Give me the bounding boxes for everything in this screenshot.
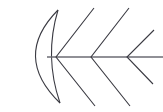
diagram-canvas [0,0,163,112]
fishbone-diagram [0,0,163,112]
